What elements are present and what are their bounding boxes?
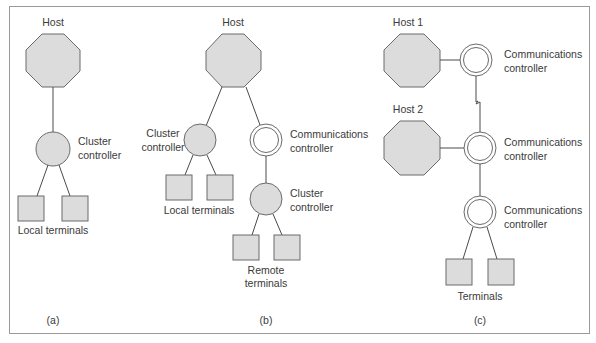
- host-label: Host: [42, 16, 64, 28]
- local-terminals-label: Local terminals: [18, 224, 89, 236]
- terminal-icon: [207, 175, 233, 200]
- communications-controller-label-line2: controller: [504, 150, 548, 162]
- remote-cluster-controller-icon: [250, 183, 282, 215]
- cluster-controller-label: Cluster: [78, 135, 112, 147]
- terminal-icon: [446, 259, 472, 285]
- communications-controller-inner-ring: [468, 136, 493, 161]
- cluster-controller-label-line2: controller: [141, 141, 185, 153]
- communications-controller-label: Communications: [504, 204, 582, 216]
- communications-controller-label: Communications: [504, 136, 582, 148]
- panel-caption: (c): [474, 314, 486, 326]
- remote-terminals-label: Remote: [248, 264, 285, 276]
- panel-caption: (a): [47, 314, 60, 326]
- cluster-controller-label: Cluster: [146, 127, 180, 139]
- host2-label: Host 2: [393, 103, 424, 115]
- terminal-icon: [166, 175, 192, 200]
- terminal-icon: [488, 259, 514, 285]
- host-octagon-icon: [26, 34, 80, 87]
- host2-octagon-icon: [384, 121, 440, 175]
- terminals-label: Terminals: [458, 290, 503, 302]
- remote-terminals-label-line2: terminals: [245, 277, 288, 289]
- communications-controller-inner-ring: [254, 128, 279, 153]
- communications-controller-inner-ring: [464, 48, 489, 73]
- cluster-controller-icon: [184, 124, 216, 156]
- remote-cluster-controller-label: Cluster: [290, 187, 324, 199]
- cluster-controller-icon: [36, 132, 70, 166]
- host1-label: Host 1: [393, 16, 424, 28]
- communications-controller-label-line2: controller: [290, 142, 334, 154]
- local-terminals-label: Local terminals: [164, 204, 235, 216]
- communications-controller-label: Communications: [290, 128, 368, 140]
- remote-cluster-controller-label-line2: controller: [290, 201, 334, 213]
- terminal-icon: [274, 235, 300, 260]
- network-topology-diagram: Host Cluster controller Local terminals …: [0, 0, 596, 343]
- host1-octagon-icon: [384, 34, 440, 87]
- communications-controller-label-line2: controller: [504, 62, 548, 74]
- terminal-icon: [18, 196, 44, 221]
- communications-controller-label: Communications: [504, 48, 582, 60]
- host-label: Host: [222, 16, 244, 28]
- panel-caption: (b): [260, 314, 273, 326]
- terminal-icon: [62, 196, 88, 221]
- terminal-icon: [233, 235, 259, 260]
- cluster-controller-label-line2: controller: [78, 149, 122, 161]
- communications-controller-inner-ring: [468, 200, 493, 225]
- communications-controller-label-line2: controller: [504, 218, 548, 230]
